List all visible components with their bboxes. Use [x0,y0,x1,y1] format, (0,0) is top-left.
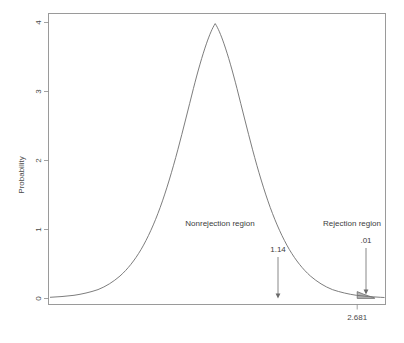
alpha-level-label: .01 [360,236,372,245]
y-tick-label-3: 3 [34,89,43,94]
test-statistic-arrowhead [276,293,281,298]
y-axis-title: Probability [17,156,26,193]
y-tick-label-0: 0 [34,296,43,301]
chart-canvas: 0 1 2 3 4 Probability 2.681 Nonrejection… [0,0,404,343]
y-tick-label-1: 1 [34,227,43,232]
nonrejection-region-label: Nonrejection region [185,219,254,228]
y-tick-label-4: 4 [34,20,43,25]
normal-distribution-plot: 0 1 2 3 4 Probability 2.681 Nonrejection… [0,0,404,343]
alpha-arrow [364,248,369,295]
y-tick-label-2: 2 [34,158,43,163]
normal-curve [50,24,385,298]
y-axis-ticks [44,23,49,299]
rejection-region-label: Rejection region [323,219,381,228]
test-statistic-arrow [276,257,281,299]
alpha-arrowhead [364,289,369,294]
plot-frame [49,14,386,305]
x-tick-label-critical-value: 2.681 [347,313,368,322]
test-statistic-label: 1.14 [270,245,286,254]
